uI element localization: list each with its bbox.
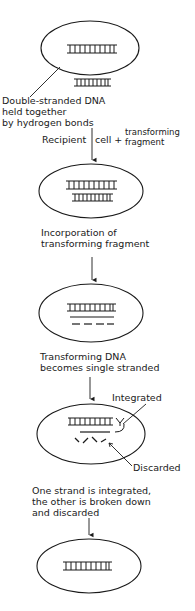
caption-line: becomes single stranded xyxy=(40,362,159,373)
caption-step3: Transforming DNA becomes single stranded xyxy=(40,351,159,373)
leader-line-integrated xyxy=(123,404,146,424)
caption-line: transforming fragment xyxy=(41,238,149,249)
recipient-cell-1 xyxy=(41,21,139,75)
caption-line: and discarded xyxy=(32,507,151,518)
transforming-fragment-dna xyxy=(74,79,111,86)
leader-line-discarded xyxy=(109,443,132,466)
recipient-cell-2 xyxy=(39,164,143,218)
caption-step1: Double-stranded DNA held together by hyd… xyxy=(2,95,105,128)
callout-integrated: Integrated xyxy=(112,392,162,403)
chromosome-dna-ladder xyxy=(68,418,113,425)
caption-line: by hydrogen bonds xyxy=(2,117,105,128)
label-recipient: Recipient xyxy=(42,134,86,145)
caption-step4: One strand is integrated, the other is b… xyxy=(32,485,151,518)
discarded-fragments xyxy=(75,437,106,443)
recipient-cell-5 xyxy=(37,539,141,593)
label-transforming: transforming xyxy=(125,128,180,137)
caption-step2: Incorporation of transforming fragment xyxy=(41,227,149,249)
recipient-cell-4 xyxy=(37,404,146,466)
caption-line: the other is broken down xyxy=(32,496,151,507)
label-fragment: fragment xyxy=(125,138,164,147)
caption-line: Incorporation of xyxy=(41,227,149,238)
leader-line-double-stranded xyxy=(30,67,60,97)
callout-discarded: Discarded xyxy=(133,462,181,473)
recipient-cell-3 xyxy=(39,284,143,342)
chromosome-dna-ladder xyxy=(66,181,117,189)
transformation-diagram xyxy=(0,0,195,611)
caption-line: Transforming DNA xyxy=(40,351,159,362)
caption-line: held together xyxy=(2,106,105,117)
transformed-chromosome-ladder xyxy=(63,562,112,570)
caption-line: One strand is integrated, xyxy=(32,485,151,496)
chromosome-dna-ladder xyxy=(67,304,116,311)
chromosome-dna-ladder xyxy=(67,45,117,53)
incorporated-fragment-ladder xyxy=(72,194,113,201)
caption-line: Double-stranded DNA xyxy=(2,95,105,106)
label-cell-plus: cell + xyxy=(95,134,122,145)
integration-junction xyxy=(116,418,124,426)
